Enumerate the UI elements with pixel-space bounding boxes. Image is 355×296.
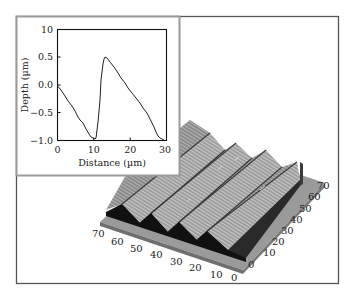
x-tick-label: 10	[88, 144, 100, 155]
x-tick-label: 20	[124, 144, 136, 155]
y-tick-label: −1.0	[30, 135, 53, 146]
left-tick: 0	[231, 272, 237, 283]
right-tick: 10	[263, 247, 276, 258]
inset-plot: 10 0.5 0.0 −0.5 −1.0 0 10 20 30 Distance…	[17, 17, 180, 176]
left-tick: 20	[189, 262, 202, 273]
right-tick: 50	[299, 203, 312, 214]
left-tick: 40	[150, 249, 163, 260]
right-tick: 60	[308, 191, 321, 202]
left-tick: 10	[210, 269, 223, 280]
right-tick: 20	[272, 236, 285, 247]
x-tick-label: 30	[159, 144, 171, 155]
left-tick: 30	[170, 256, 183, 267]
right-tick: 0	[248, 259, 254, 270]
right-tick: 70	[317, 180, 330, 191]
right-tick: 30	[281, 225, 294, 236]
left-tick: 60	[111, 236, 124, 247]
y-tick-label: 0.5	[38, 51, 53, 62]
left-tick: 70	[92, 228, 105, 239]
figure: 70 60 50 40 30 20 10 0 70 60 50 40 30 20…	[0, 0, 355, 296]
y-tick-label: 0.0	[38, 79, 53, 90]
right-tick: 40	[290, 214, 303, 225]
left-tick: 50	[130, 243, 143, 254]
x-axis-title: Distance (µm)	[78, 157, 146, 168]
y-axis-title: Depth (µm)	[19, 58, 30, 113]
x-tick-label: 0	[54, 144, 60, 155]
y-tick-label: 10	[41, 24, 53, 35]
y-tick-label: −0.5	[30, 107, 53, 118]
